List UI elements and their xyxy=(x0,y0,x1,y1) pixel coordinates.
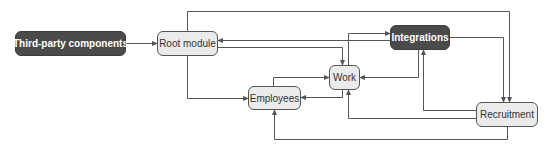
node-label: Recruitment xyxy=(480,109,534,120)
node-label: Integrations xyxy=(391,32,448,43)
node-work: Work xyxy=(329,65,360,90)
node-label: Work xyxy=(333,72,356,83)
edge-employees-to-work xyxy=(274,78,330,87)
edge-work-to-employees xyxy=(301,90,343,98)
edge-integrations-to-recruitment xyxy=(450,38,504,103)
node-third-party-components: Third-party components xyxy=(15,31,126,56)
node-label: Root module xyxy=(159,38,216,49)
edge-work-to-integrations xyxy=(349,34,391,66)
edge-recruitment-to-employees xyxy=(275,110,508,140)
diagram-edges xyxy=(0,0,554,147)
node-label: Employees xyxy=(250,93,299,104)
node-root-module: Root module xyxy=(157,31,218,56)
edge-root-to-employees xyxy=(188,56,249,99)
node-employees: Employees xyxy=(248,86,301,110)
edge-recruitment-to-work xyxy=(349,90,477,119)
edge-root-to-work xyxy=(218,48,343,66)
node-label: Third-party components xyxy=(13,38,128,49)
edge-recruitment-to-integrations xyxy=(424,50,477,111)
edge-integrations-to-work xyxy=(360,50,419,78)
node-recruitment: Recruitment xyxy=(476,102,538,127)
module-dependency-diagram: Third-party components Root module Integ… xyxy=(0,0,554,147)
node-integrations: Integrations xyxy=(390,25,450,50)
